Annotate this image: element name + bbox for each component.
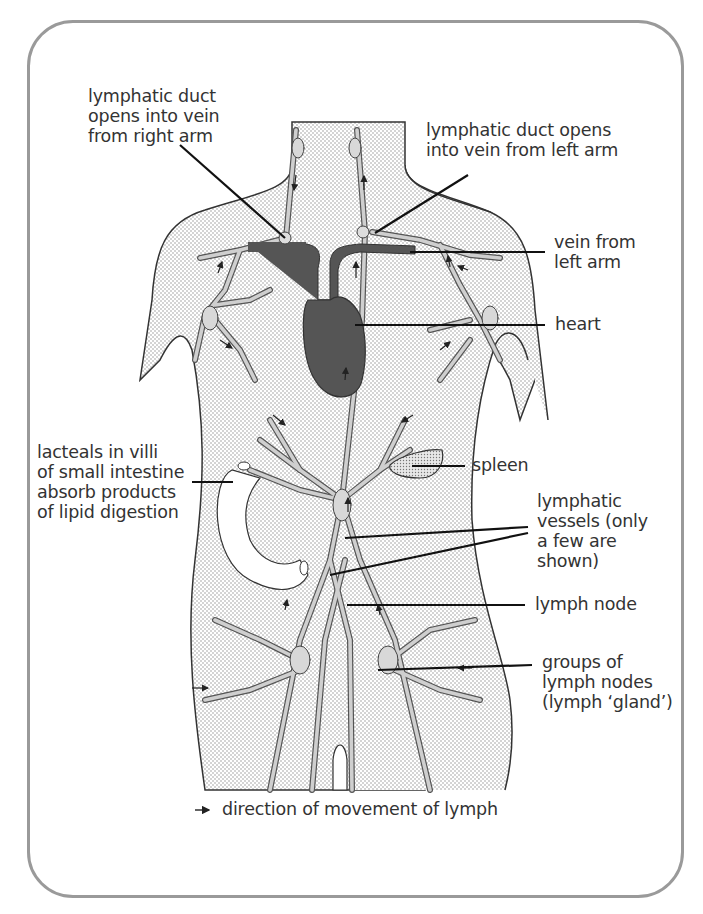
label-lymph-node: lymph node (535, 594, 637, 614)
label-spleen: spleen (472, 455, 529, 475)
legend-text: direction of movement of lymph (222, 799, 498, 819)
label-lymph-gland: groups of lymph nodes (lymph ‘gland’) (542, 652, 673, 712)
label-lacteals: lacteals in villi of small intestine abs… (37, 442, 184, 522)
label-heart: heart (555, 314, 601, 334)
label-lymphatic-vessels: lymphatic vessels (only a few are shown) (537, 491, 648, 571)
label-vein-left-arm: vein from left arm (554, 232, 636, 272)
label-duct-left: lymphatic duct opens into vein from left… (426, 120, 618, 160)
label-duct-right: lymphatic duct opens into vein from righ… (88, 86, 220, 146)
